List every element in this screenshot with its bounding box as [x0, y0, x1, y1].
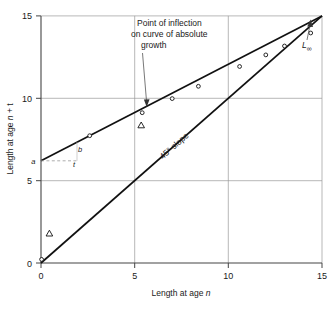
data-point-marker — [88, 134, 92, 138]
x-tick-label-0: 0 — [38, 271, 43, 281]
walford-plot-svg: 0 5 10 15 0 5 10 15 Length at age n Leng… — [0, 0, 333, 314]
data-point-marker — [264, 53, 268, 57]
y-axis-title: Length at age n + t — [5, 103, 15, 175]
inflection-note-line-1: Point of inflection — [137, 18, 202, 28]
y-tick-label-0: 0 — [27, 259, 32, 269]
data-point-marker — [283, 44, 287, 48]
l-infinity-subscript: ∞ — [307, 45, 312, 52]
data-point-marker — [170, 97, 174, 101]
x-axis-title-text: Length at age — [151, 288, 205, 298]
x-tick-label-10: 10 — [223, 271, 233, 281]
intercept-label: a — [31, 157, 35, 166]
x-tick-label-15: 15 — [317, 271, 327, 281]
data-point-marker — [197, 84, 201, 88]
y-tick-label-15: 15 — [22, 11, 32, 21]
data-point-marker — [140, 111, 144, 115]
y-axis-title-text: Length at age — [5, 120, 15, 174]
inflection-note-line-2: on curve of absolute — [131, 29, 208, 39]
data-point-marker — [309, 31, 313, 35]
x-axis-title: Length at age n — [151, 288, 210, 298]
x-tick-label-5: 5 — [132, 271, 137, 281]
x-axis-title-variable: n — [206, 288, 211, 298]
y-tick-label-10: 10 — [22, 94, 32, 104]
y-axis-title-tail: + t — [5, 103, 15, 116]
data-point-marker-origin — [40, 258, 44, 262]
data-point-marker — [238, 65, 242, 69]
inflection-note-line-3: growth — [141, 40, 167, 50]
y-tick-label-5: 5 — [27, 176, 32, 186]
figure-container: 0 5 10 15 0 5 10 15 Length at age n Leng… — [0, 0, 333, 314]
rise-label: b — [78, 145, 82, 154]
